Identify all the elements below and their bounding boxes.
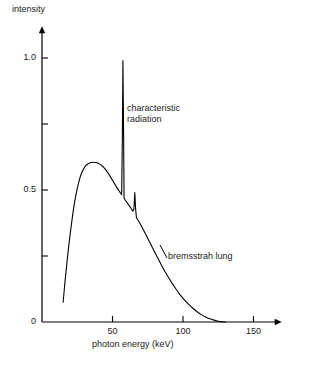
annotation-characteristic-line1: characteristic (127, 103, 180, 114)
axes (39, 26, 282, 325)
x-axis-arrow-icon (275, 319, 282, 325)
spectrum-curve-path (63, 61, 225, 322)
annotation-characteristic-radiation: characteristic radiation (127, 103, 180, 125)
y-axis-arrow-icon (39, 26, 45, 33)
y-tick-label: 1.0 (14, 52, 36, 62)
bremsstrahlung-leader-line (160, 245, 167, 258)
y-axis-title: intensity (12, 4, 45, 14)
y-tick-label: 0 (14, 316, 36, 326)
x-axis-title: photon energy (keV) (92, 339, 174, 349)
annotation-leader-lines (160, 245, 167, 258)
annotation-characteristic-line2: radiation (127, 114, 180, 125)
x-tick-label: 100 (171, 326, 195, 336)
annotation-bremsstrahlung: bremsstrah lung (168, 251, 233, 262)
spectrum-curve (63, 61, 225, 322)
x-tick-label: 50 (101, 326, 125, 336)
x-tick-label: 150 (242, 326, 266, 336)
y-tick-label: 0.5 (14, 184, 36, 194)
axis-ticks (42, 58, 254, 322)
xray-spectrum-figure: intensity photon energy (keV) characteri… (0, 0, 313, 373)
chart-plot-area (0, 0, 313, 373)
